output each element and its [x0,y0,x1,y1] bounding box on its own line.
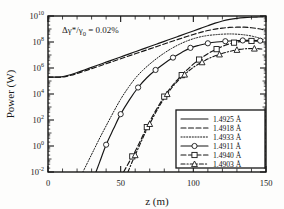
y-axis-tick-labels: 10-21001021041061081010 [30,10,45,177]
legend: 1.4925 Å1.4918 Å1.4933 Å1.4911 Å1.4940 Å… [176,110,265,169]
y-tick-label: 1010 [30,10,45,21]
series-marker-3 [205,41,210,46]
legend-label-5: 1.4903 Å [213,160,242,169]
series-marker-3 [240,38,245,43]
series-marker-3 [136,85,141,90]
series-marker-3 [104,142,109,147]
x-tick-label: 0 [46,178,50,188]
series-marker-4 [214,47,219,52]
y-axis-title: Power (W) [4,69,17,118]
y-tick-label: 108 [33,36,45,47]
energy-spread-annotation: Δγ*/γ0 = 0.02% [62,25,119,37]
series-marker-4 [249,38,254,43]
series-marker-3 [223,39,228,44]
series-marker-5 [147,121,153,127]
series-marker-3 [118,112,123,117]
legend-label-4: 1.4940 Å [213,151,242,160]
legend-marker-3 [192,143,197,148]
series-marker-3 [170,55,175,60]
x-tick-label: 50 [116,178,125,188]
annotation-group: Δγ*/γ0 = 0.02% [62,25,119,37]
legend-label-2: 1.4933 Å [213,133,242,142]
legend-label-1: 1.4918 Å [213,124,242,133]
x-tick-label: 150 [260,178,273,188]
x-axis-title: z (m) [145,195,169,208]
y-tick-label: 100 [33,140,45,151]
figure-panel: Power (W) z (m) 10-21001021041061081010 … [0,0,284,209]
x-axis-tick-labels: 050100150 [46,178,273,188]
y-tick-label: 10-2 [31,166,45,177]
legend-marker-4 [192,152,197,157]
series-marker-3 [188,45,193,50]
series-marker-3 [258,38,263,43]
series-marker-4 [231,40,236,45]
y-tick-label: 104 [33,88,45,99]
x-tick-label: 100 [187,178,200,188]
legend-label-3: 1.4911 Å [213,142,241,151]
legend-label-0: 1.4925 Å [213,115,242,124]
y-tick-label: 106 [33,62,45,73]
power-vs-z-log-plot: Power (W) z (m) 10-21001021041061081010 … [0,0,284,209]
y-tick-label: 102 [33,114,45,125]
series-marker-3 [153,67,158,72]
